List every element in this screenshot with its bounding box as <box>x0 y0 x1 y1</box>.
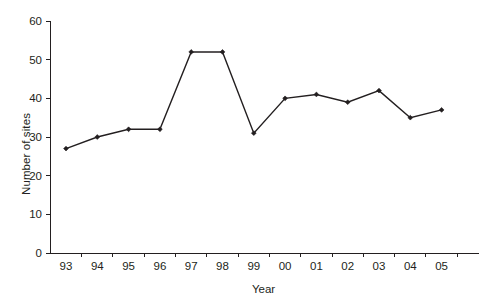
y-axis-ticks <box>46 21 50 253</box>
y-axis-tick-labels: 0102030405060 <box>29 15 42 259</box>
x-tick-label: 01 <box>310 260 323 272</box>
x-axis-ticks <box>82 253 458 257</box>
y-tick-label: 0 <box>36 247 42 259</box>
y-tick-label: 20 <box>29 170 42 182</box>
data-point-marker <box>64 146 69 151</box>
data-series-markers <box>64 50 444 151</box>
data-point-marker <box>95 135 100 140</box>
y-tick-label: 50 <box>29 54 42 66</box>
data-point-marker <box>220 50 225 55</box>
x-tick-label: 00 <box>279 260 292 272</box>
y-tick-label: 10 <box>29 208 42 220</box>
data-point-marker <box>158 127 163 132</box>
y-tick-label: 30 <box>29 131 42 143</box>
data-point-marker <box>314 92 319 97</box>
x-tick-label: 93 <box>60 260 73 272</box>
data-point-marker <box>345 100 350 105</box>
y-tick-label: 40 <box>29 92 42 104</box>
x-tick-label: 96 <box>154 260 167 272</box>
line-chart: Number of sites Year 9394959697989900010… <box>0 0 487 308</box>
x-tick-label: 03 <box>373 260 386 272</box>
x-tick-label: 04 <box>404 260 417 272</box>
data-point-marker <box>439 108 444 113</box>
plot-area: 93949596979899000102030405 0102030405060 <box>0 0 487 308</box>
x-tick-label: 02 <box>341 260 354 272</box>
y-tick-label: 60 <box>29 15 42 27</box>
x-tick-label: 97 <box>185 260 198 272</box>
data-point-marker <box>126 127 131 132</box>
x-tick-label: 99 <box>247 260 260 272</box>
x-tick-label: 94 <box>91 260 104 272</box>
data-point-marker <box>189 50 194 55</box>
x-tick-label: 98 <box>216 260 229 272</box>
x-tick-label: 05 <box>435 260 448 272</box>
x-axis-tick-labels: 93949596979899000102030405 <box>60 260 448 272</box>
x-tick-label: 95 <box>122 260 135 272</box>
